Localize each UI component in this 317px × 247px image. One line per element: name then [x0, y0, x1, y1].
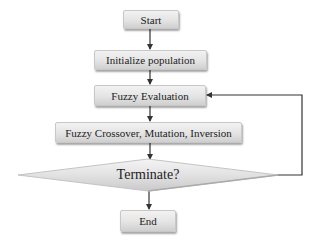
- start-node: Start: [123, 10, 179, 29]
- terminate-decision-label: Terminate?: [18, 164, 278, 186]
- end-node: End: [120, 210, 176, 232]
- fuzzy-operators-node: Fuzzy Crossover, Mutation, Inversion: [55, 122, 242, 143]
- fuzzy-evaluation-label: Fuzzy Evaluation: [111, 90, 188, 102]
- initialize-population-node: Initialize population: [94, 50, 207, 70]
- fuzzy-evaluation-node: Fuzzy Evaluation: [94, 85, 206, 106]
- start-label: Start: [141, 14, 162, 26]
- end-label: End: [139, 215, 157, 227]
- fuzzy-operators-label: Fuzzy Crossover, Mutation, Inversion: [65, 127, 232, 139]
- initialize-population-label: Initialize population: [106, 54, 195, 66]
